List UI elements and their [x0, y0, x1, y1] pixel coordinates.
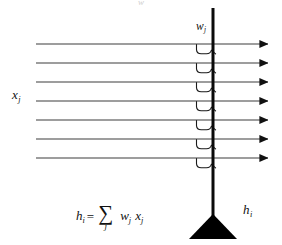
- weight-label-wj: wj: [196, 21, 206, 34]
- input-label-base: x: [12, 87, 18, 102]
- sigma-index: j: [104, 222, 107, 231]
- summation-sigma: ∑ j: [98, 204, 113, 231]
- formula-factor-w-base: w: [120, 208, 129, 223]
- output-label-hi: hi: [243, 203, 252, 219]
- output-label-subscript: i: [250, 210, 253, 219]
- formula-factor-w-subscript: j: [129, 216, 131, 225]
- input-label-subscript: j: [18, 95, 21, 104]
- output-label-base: h: [243, 202, 250, 217]
- formula-factor-w: wj: [120, 208, 131, 225]
- formula-factor-x: xj: [135, 208, 143, 225]
- neuron-summation-diagram: w: [0, 0, 282, 245]
- soma-triangle: [189, 214, 237, 239]
- weight-label-base: w: [196, 20, 204, 32]
- formula-lhs: hi: [76, 208, 85, 225]
- formula-equals: =: [85, 209, 97, 225]
- input-lines-group: [36, 44, 268, 158]
- summation-formula: hi = ∑ j wj xj: [76, 203, 143, 230]
- sigma-glyph: ∑: [98, 204, 113, 222]
- formula-factor-x-subscript: j: [141, 216, 143, 225]
- weight-label-subscript: j: [204, 25, 206, 34]
- input-label-xj: xj: [12, 88, 20, 104]
